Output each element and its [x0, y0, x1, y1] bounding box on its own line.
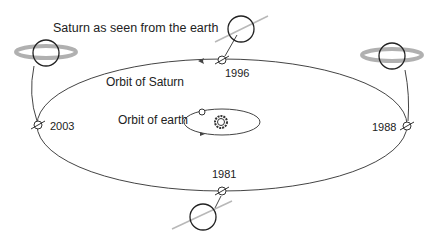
saturn-glyph-1988-icon: [400, 122, 414, 130]
sun-icon: [215, 116, 227, 128]
year-2003-label: 2003: [50, 120, 74, 132]
orbit-earth-label: Orbit of earth: [118, 113, 188, 127]
saturn-view-1996-icon: [215, 16, 268, 42]
year-1988-label: 1988: [372, 121, 396, 133]
saturn-view-1981-icon: [172, 201, 232, 230]
diagram-title: Saturn as seen from the earth: [53, 21, 218, 35]
saturn-glyph-1996-icon: [215, 56, 229, 64]
earth-icon: [199, 109, 205, 115]
saturn-view-2003-icon: [16, 40, 76, 66]
connector-1988: [405, 70, 409, 121]
saturn-glyph-2003-icon: [31, 121, 45, 129]
earth-orbit-arrow-icon: [200, 132, 205, 136]
saturn-view-1988-icon: [362, 43, 422, 69]
year-1981-label: 1981: [212, 168, 236, 180]
orbit-saturn-label: Orbit of Saturn: [106, 75, 184, 89]
year-1996-label: 1996: [225, 67, 249, 79]
connector-2003: [32, 66, 37, 121]
saturn-orbit-diagram: Saturn as seen from the earth Orbit of S…: [0, 0, 435, 242]
